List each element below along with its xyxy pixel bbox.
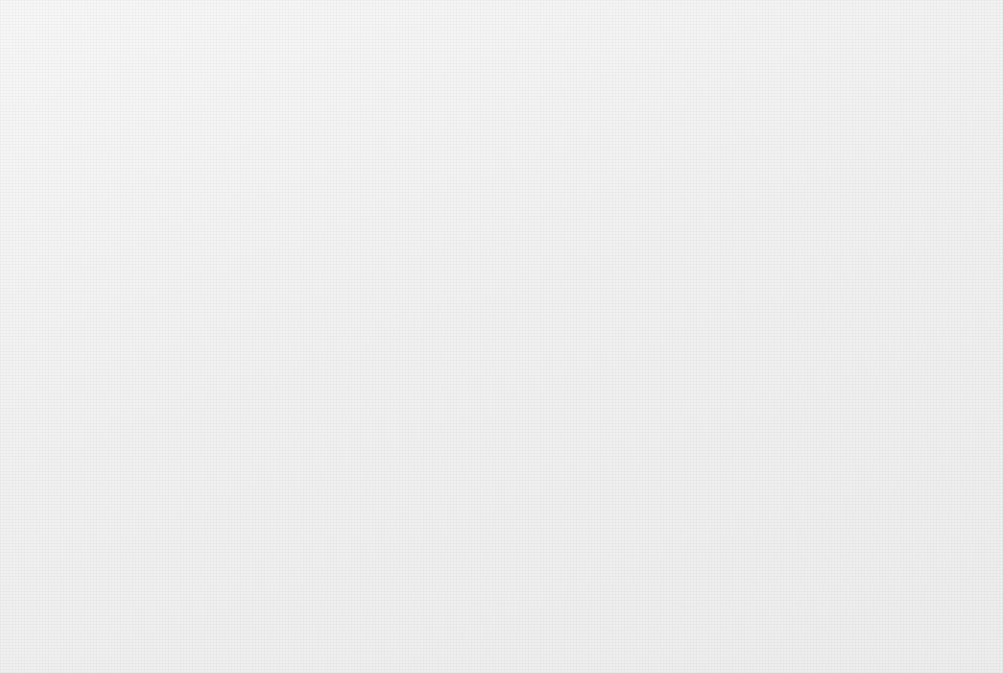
x-axis-line — [120, 492, 736, 493]
bar-value-label: 14% — [627, 403, 687, 423]
y-axis-tick-label: 60% — [30, 210, 108, 230]
bar — [148, 73, 183, 492]
y-axis-tick-mark — [113, 492, 120, 493]
bar — [640, 429, 675, 492]
bar-value-label: 71% — [170, 146, 230, 166]
bar-value-label: 29% — [539, 335, 599, 355]
bar — [394, 172, 429, 492]
x-axis-category-label: Video-Werbung — [378, 489, 482, 593]
x-axis-category-label: Display-Werbung — [255, 479, 370, 594]
x-axis-tick-mark — [735, 492, 736, 499]
chart-legend: Aktuell eine hohe BedeutungIn fünf Jahre… — [750, 228, 990, 387]
bar — [306, 361, 341, 492]
bar — [517, 361, 552, 492]
bar-value-label: 79% — [662, 110, 722, 130]
y-axis-tick-mark — [113, 312, 120, 313]
y-axis-tick-label: 20% — [30, 391, 108, 411]
y-axis-tick-mark — [113, 131, 120, 132]
y-axis-tick-mark — [113, 221, 120, 222]
y-axis-tick-mark — [113, 41, 120, 42]
gridline — [120, 493, 734, 494]
bar-value-label: 71% — [381, 146, 441, 166]
bar-chart: 0%20%40%60%80%100% 93%71%86%29%71%86%29%… — [0, 0, 1003, 673]
bar-value-label: 29% — [293, 335, 353, 355]
y-axis-tick-label: 100% — [30, 30, 108, 50]
legend-swatch-icon — [750, 313, 761, 324]
x-axis-category-label: Mobile-Werbung — [624, 484, 734, 594]
y-axis-tick-label: 0% — [30, 481, 108, 501]
legend-item: Aktuell eine hohe Bedeutung — [750, 228, 990, 274]
gridline — [120, 132, 734, 133]
legend-label: Aktuell eine hohe Bedeutung — [768, 228, 973, 274]
bar — [271, 104, 306, 492]
y-axis-tick-mark — [113, 402, 120, 403]
legend-item: In fünf Jahren eine hohe Bedeutung — [750, 308, 990, 354]
legend-swatch-icon — [750, 233, 761, 244]
bar-value-label: 86% — [258, 78, 318, 98]
x-axis-category-label: Search-Werbung — [132, 482, 244, 594]
bar — [552, 361, 587, 492]
bar — [183, 172, 218, 492]
bar-value-label: 93% — [135, 47, 195, 67]
x-axis-tick-mark — [489, 492, 490, 499]
y-axis-line — [120, 41, 121, 493]
legend-label: In fünf Jahren eine hohe Bedeutung — [768, 308, 973, 354]
bar-value-label: 86% — [416, 78, 476, 98]
y-axis-tick-label: 80% — [30, 120, 108, 140]
x-axis-category-label: Affiliate-Werbung — [501, 477, 617, 593]
bar — [675, 136, 710, 492]
y-axis-tick-label: 40% — [30, 301, 108, 321]
